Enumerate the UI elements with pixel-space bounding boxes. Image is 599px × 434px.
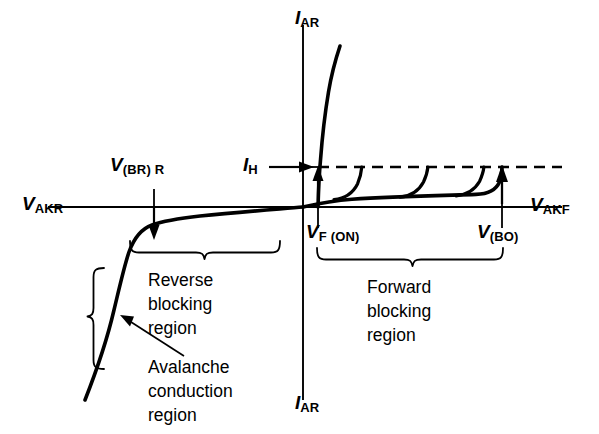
region-label-reverse-blocking-line-3: region: [148, 316, 213, 340]
axis-label-i-ar-bottom-subscript: AR: [300, 400, 319, 415]
axis-label-v-akr-subscript: AKR: [35, 201, 64, 216]
marker-label-v-bo-symbol: V: [477, 221, 490, 242]
axis-label-v-akr-symbol: V: [22, 193, 35, 214]
breakover-transition-1: [334, 167, 362, 200]
marker-label-i-h-subscript: H: [248, 162, 258, 177]
region-label-avalanche-conduction-line-2: conduction: [148, 379, 233, 403]
region-label-reverse-blocking-line-1: Reverse: [148, 268, 213, 292]
region-label-forward-blocking: Forward blocking region: [367, 275, 431, 347]
forward-blocking-brace: [317, 248, 503, 266]
axis-label-v-akf-symbol: V: [530, 194, 543, 215]
forward-conduction-branch: [318, 46, 340, 207]
characteristic-curve-canvas: [0, 0, 599, 434]
region-label-forward-blocking-line-3: region: [367, 323, 431, 347]
ih-arrow-head: [299, 162, 314, 173]
breakover-transition-2: [400, 167, 428, 197]
axis-label-i-ar-top-subscript: AR: [300, 15, 319, 30]
axis-label-v-akf: VAKF: [530, 195, 570, 216]
marker-label-v-bo-subscript: (BO): [490, 229, 519, 244]
region-label-reverse-blocking: Reverse blocking region: [148, 268, 213, 340]
region-label-forward-blocking-line-2: blocking: [367, 299, 431, 323]
axis-label-i-ar-top: IAR: [295, 8, 319, 29]
marker-label-v-f-on-subscript: F (ON): [319, 229, 360, 244]
axis-label-i-ar-bottom: IAR: [295, 393, 319, 414]
breakover-transition-3: [456, 167, 484, 196]
axis-ticks-group: [154, 167, 502, 228]
marker-label-v-br-r-symbol: V: [110, 154, 123, 175]
marker-label-v-br-r-subscript: (BR) R: [123, 162, 165, 177]
region-label-avalanche-conduction-line-3: region: [148, 403, 233, 427]
forward-blocking-branch: [303, 167, 502, 207]
region-label-avalanche-conduction-line-1: Avalanche: [148, 355, 233, 379]
axes-group: [48, 25, 562, 400]
avalanche-leader-arrowhead: [120, 315, 134, 327]
reverse-blocking-brace: [130, 241, 280, 259]
marker-label-v-f-on: VF (ON): [306, 222, 360, 243]
thyristor-characteristic-figure: IAR IAR VAKF VAKR V(BR) R IH VF (ON) V(B…: [0, 0, 599, 434]
marker-label-v-f-on-symbol: V: [306, 221, 319, 242]
region-label-reverse-blocking-line-2: blocking: [148, 292, 213, 316]
axis-label-v-akf-subscript: AKF: [543, 202, 570, 217]
marker-label-v-br-r: V(BR) R: [110, 155, 164, 176]
region-label-forward-blocking-line-1: Forward: [367, 275, 431, 299]
marker-label-v-bo: V(BO): [477, 222, 519, 243]
region-label-avalanche-conduction: Avalanche conduction region: [148, 355, 233, 427]
marker-label-i-h: IH: [243, 155, 258, 176]
axis-label-v-akr: VAKR: [22, 194, 63, 215]
characteristic-curves-group: [85, 46, 502, 400]
